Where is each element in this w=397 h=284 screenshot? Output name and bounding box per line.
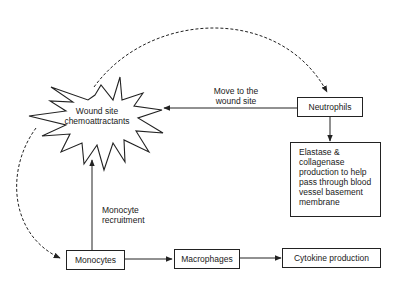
move-to-wound-label: Move to the wound site bbox=[206, 86, 266, 106]
monocyte-recruitment-label: Monocyte recruitment bbox=[102, 205, 145, 225]
wound-site-line1: Wound site bbox=[52, 106, 142, 116]
move-label-line1: Move to the bbox=[206, 86, 266, 96]
move-label-line2: wound site bbox=[206, 96, 266, 106]
monocytes-label: Monocytes bbox=[75, 255, 116, 265]
neutrophils-label: Neutrophils bbox=[309, 102, 352, 112]
cytokine-node: Cytokine production bbox=[282, 248, 381, 268]
cytokine-label: Cytokine production bbox=[294, 253, 369, 263]
elastase-node: Elastase & collagenase production to hel… bbox=[290, 142, 381, 217]
recruitment-line2: recruitment bbox=[102, 215, 145, 225]
macrophages-label: Macrophages bbox=[181, 254, 233, 264]
elastase-line: vessel basement bbox=[299, 187, 380, 197]
dashed-arrow-wound-to-monocytes bbox=[17, 128, 60, 258]
monocytes-node: Monocytes bbox=[66, 250, 125, 270]
wound-site-line2: chemoattractants bbox=[52, 116, 142, 126]
elastase-line: collagenase bbox=[299, 157, 380, 167]
neutrophils-node: Neutrophils bbox=[297, 97, 363, 117]
recruitment-line1: Monocyte bbox=[102, 205, 145, 215]
elastase-line: pass through blood bbox=[299, 177, 380, 187]
dashed-arrow-wound-to-neutrophils bbox=[94, 28, 327, 92]
macrophages-node: Macrophages bbox=[174, 249, 240, 269]
elastase-line: membrane bbox=[299, 197, 380, 207]
elastase-line: production to help bbox=[299, 167, 380, 177]
elastase-line: Elastase & bbox=[299, 147, 380, 157]
wound-site-label: Wound site chemoattractants bbox=[52, 106, 142, 126]
